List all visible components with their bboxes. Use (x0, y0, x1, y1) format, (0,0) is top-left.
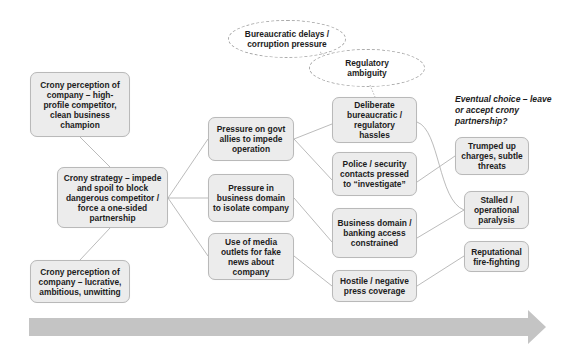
box-effect-hostile-press: Hostile / negative press coverage (332, 270, 417, 302)
box-label: Crony perception of company – lucrative,… (35, 267, 125, 297)
connector-govt-to-bureaucratic (294, 124, 332, 139)
box-label: Use of media outlets for fake news about… (213, 237, 289, 277)
connector-perception-high-to-strategy (80, 137, 110, 167)
box-outcome-reputational: Reputational fire-fighting (464, 241, 529, 272)
box-label: Deliberate bureaucratic / regulatory has… (343, 100, 407, 140)
box-label: Crony perception of company – high-profi… (35, 80, 125, 130)
connector-hostile-to-reputational (417, 256, 464, 286)
cloud-bureaucratic-delays: Bureaucratic delays / corruption pressur… (228, 20, 346, 58)
box-label: Pressure in business domain to isolate c… (213, 183, 289, 213)
connector-strategy-to-media (168, 198, 208, 256)
connector-media-to-hostile (294, 256, 332, 286)
eventual-choice-note: Eventual choice – leave or accept crony … (455, 94, 559, 127)
connector-perception-lucrative-to-strategy (80, 228, 110, 260)
box-label: Police / security contacts pressed to “i… (337, 159, 412, 189)
cloud-label: Bureaucratic delays / corruption pressur… (244, 29, 330, 49)
note-label: Eventual choice – leave or accept crony … (455, 94, 552, 126)
connector-strategy-to-govt (168, 139, 208, 198)
cloud-label: Regulatory ambiguity (337, 58, 397, 78)
box-label: Trumped up charges, subtle threats (460, 141, 524, 171)
box-label: Business domain / banking access constra… (337, 218, 412, 248)
box-effect-police: Police / security contacts pressed to “i… (332, 152, 417, 196)
connector-govt-to-police (294, 139, 332, 180)
box-effect-bureaucratic: Deliberate bureaucratic / regulatory has… (332, 97, 417, 143)
box-label: Stalled / operational paralysis (469, 195, 524, 225)
box-label: Pressure on govt allies to impede operat… (213, 124, 289, 154)
box-label: Hostile / negative press coverage (337, 276, 412, 296)
box-tactic-media: Use of media outlets for fake news about… (208, 233, 294, 280)
box-tactic-govt-allies: Pressure on govt allies to impede operat… (208, 117, 294, 161)
box-perception-lucrative: Crony perception of company – lucrative,… (30, 260, 130, 303)
connector-business-to-banking (294, 198, 332, 242)
box-crony-strategy: Crony strategy – impede and spoil to blo… (57, 167, 168, 228)
cloud-regulatory-ambiguity: Regulatory ambiguity (309, 49, 425, 87)
box-label: Reputational fire-fighting (469, 247, 524, 267)
progression-arrow (0, 310, 561, 344)
box-tactic-business-domain: Pressure in business domain to isolate c… (208, 174, 294, 222)
box-outcome-stalled: Stalled / operational paralysis (464, 191, 529, 229)
connector-banking-to-stalled (417, 210, 464, 238)
box-effect-banking: Business domain / banking access constra… (332, 208, 417, 258)
box-label: Crony strategy – impede and spoil to blo… (62, 173, 163, 223)
box-outcome-trumped-charges: Trumped up charges, subtle threats (455, 137, 529, 175)
box-perception-high-profile: Crony perception of company – high-profi… (30, 72, 130, 137)
connector-police-to-trumped (417, 156, 455, 182)
